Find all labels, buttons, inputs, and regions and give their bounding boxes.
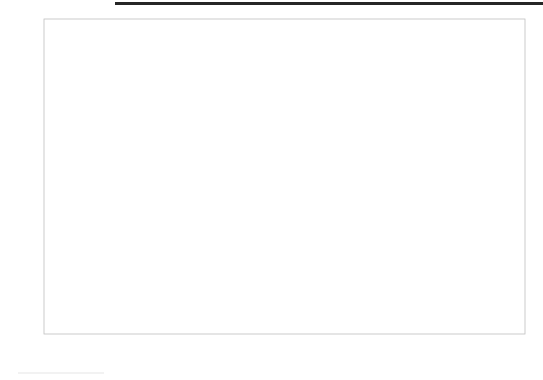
top-rule <box>115 2 543 5</box>
dose-response-chart <box>0 0 543 380</box>
figure-container <box>0 0 543 380</box>
bottom-left-mark <box>18 372 104 374</box>
plot-panel-background <box>44 19 525 334</box>
